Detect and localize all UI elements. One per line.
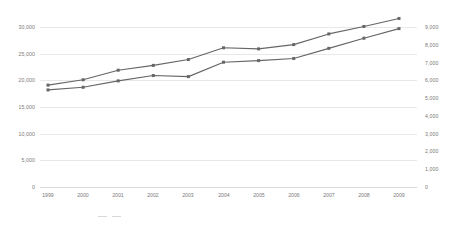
gridline-30000	[40, 27, 417, 28]
gridline-5000	[40, 160, 417, 161]
right-axis-tick-9000: 9,000	[425, 24, 438, 30]
x-axis-tick-2008: 2008	[344, 192, 384, 199]
right-axis-tick-6000: 6,000	[425, 77, 438, 83]
right-axis-tick-3000: 3,000	[425, 131, 438, 137]
x-axis-tick-2009: 2009	[379, 192, 419, 199]
right-axis-tick-4000: 4,000	[425, 113, 438, 119]
right-axis-tick-5000: 5,000	[425, 95, 438, 101]
left-axis-tick-20000: 20,000	[19, 77, 35, 83]
gridline-20000	[40, 80, 417, 81]
left-axis-tick-15000: 15,000	[19, 104, 35, 110]
x-axis-tick-2004: 2004	[204, 192, 244, 199]
x-axis-tick-2002: 2002	[133, 192, 173, 199]
legend-swatch-lower	[112, 216, 121, 217]
data-point-marker	[398, 17, 401, 20]
chart-container: 30,000 25,000 20,000 15,000 10,000 5,000…	[0, 0, 469, 231]
gridline-25000	[40, 54, 417, 55]
right-axis-tick-8000: 8,000	[425, 42, 438, 48]
x-axis-tick-2000: 2000	[63, 192, 103, 199]
x-axis-tick-2005: 2005	[239, 192, 279, 199]
x-axis-tick-2003: 2003	[168, 192, 208, 199]
left-axis-tick-25000: 25,000	[19, 51, 35, 57]
left-axis-tick-10000: 10,000	[19, 131, 35, 137]
chart-footnote	[96, 213, 386, 229]
left-axis-tick-30000: 30,000	[19, 24, 35, 30]
x-axis-tick-1999: 1999	[28, 192, 68, 199]
gridline-10000	[40, 134, 417, 135]
plot-area	[40, 27, 417, 187]
left-axis-tick-0: 0	[32, 184, 35, 190]
right-axis-tick-1000: 1,000	[425, 166, 438, 172]
right-axis-tick-7000: 7,000	[425, 60, 438, 66]
x-axis-tick-2007: 2007	[309, 192, 349, 199]
right-axis-tick-0: 0	[425, 184, 428, 190]
legend-swatch-upper	[98, 216, 107, 217]
axis-baseline	[40, 187, 417, 188]
gridline-15000	[40, 107, 417, 108]
x-axis-tick-2001: 2001	[98, 192, 138, 199]
right-axis-tick-2000: 2,000	[425, 148, 438, 154]
x-axis-tick-2006: 2006	[274, 192, 314, 199]
left-axis-tick-5000: 5,000	[22, 157, 35, 163]
